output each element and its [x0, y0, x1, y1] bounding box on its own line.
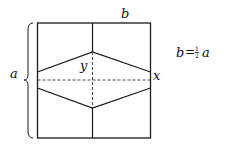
label-a: a — [10, 66, 18, 81]
formula-rhs: a — [202, 45, 210, 60]
hexagon-bottom-edges — [38, 88, 151, 108]
label-b: b — [121, 6, 129, 21]
hexagon-top-edges — [38, 52, 151, 72]
formula-frac-den: 2 — [195, 52, 199, 59]
outer-rectangle — [38, 23, 151, 138]
brace-a — [24, 23, 33, 138]
label-x: x — [153, 68, 161, 83]
formula-eq: = — [185, 45, 195, 59]
label-y: y — [79, 58, 88, 73]
formula-lhs: b — [176, 45, 184, 60]
hexagon-diagram: b a y x b = 1 2 a — [0, 0, 229, 144]
formula-frac-num: 1 — [195, 45, 199, 52]
